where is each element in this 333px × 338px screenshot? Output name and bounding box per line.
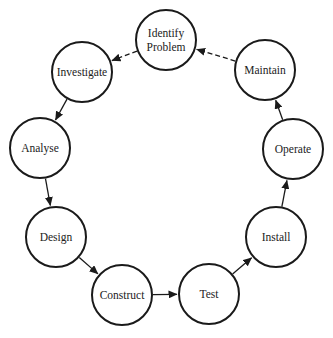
node-operate: Operate [263,119,323,179]
node-investigate: Investigate [52,42,112,102]
node-design: Design [26,207,86,267]
node-analyse: Analyse [10,118,70,178]
node-label-maintain: Maintain [244,64,286,76]
nodes-layer: IdentifyProblemInvestigateAnalyseDesignC… [10,10,323,325]
arrow-investigate-to-analyse [55,99,67,120]
node-circle-identify [136,10,196,70]
node-install: Install [246,207,306,267]
node-label-identify: Problem [147,41,186,53]
node-label-operate: Operate [275,143,311,156]
node-label-install: Install [262,231,291,243]
arrow-identify-to-investigate [112,51,137,61]
arrow-install-to-operate [282,180,287,206]
node-label-analyse: Analyse [21,142,59,155]
node-label-construct: Construct [100,289,146,301]
lifecycle-diagram: IdentifyProblemInvestigateAnalyseDesignC… [0,0,333,338]
node-label-identify: Identify [148,27,185,40]
node-label-test: Test [200,288,220,300]
node-maintain: Maintain [235,40,295,100]
arrow-analyse-to-design [45,179,50,206]
arrow-maintain-to-identify [197,49,236,61]
node-label-design: Design [40,231,73,244]
node-construct: Construct [92,265,152,325]
node-label-investigate: Investigate [57,66,107,79]
node-test: Test [179,264,239,324]
arrow-design-to-construct [79,257,98,273]
arrow-test-to-install [233,258,252,274]
arrow-operate-to-maintain [276,100,283,120]
node-identify: IdentifyProblem [136,10,196,70]
